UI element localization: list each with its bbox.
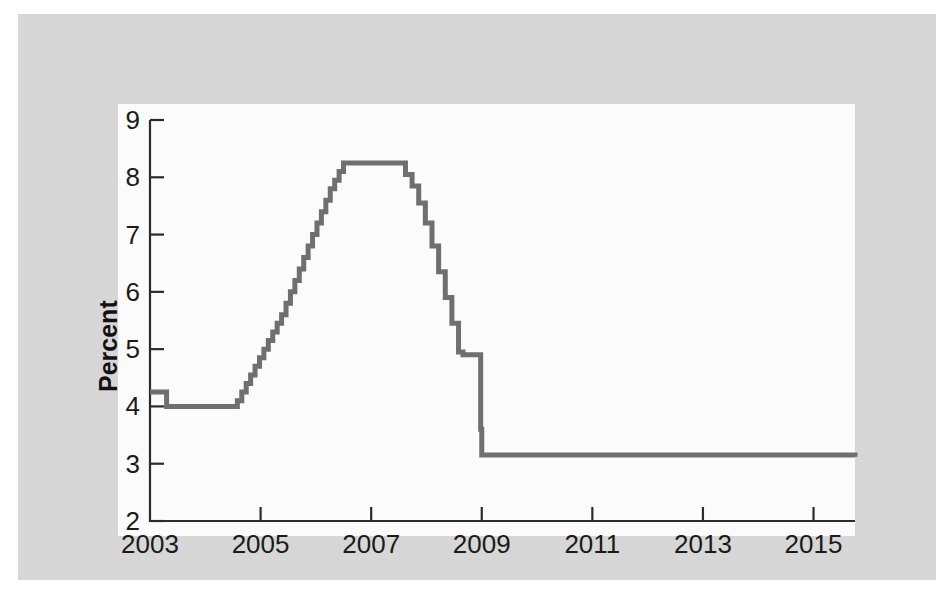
y-axis-label: Percent bbox=[94, 300, 122, 392]
y-axis-title: Percent bbox=[94, 300, 122, 392]
y-tick-label: 3 bbox=[126, 449, 140, 479]
x-tick-label: 2015 bbox=[785, 529, 843, 559]
x-tick-label: 2003 bbox=[121, 529, 179, 559]
scanned-page: commercial banks with small and medium c… bbox=[0, 0, 948, 604]
x-tick-label: 2011 bbox=[564, 529, 620, 559]
interest-rate-step-chart: Percent 23456789 20032005200720092011201… bbox=[0, 0, 948, 604]
y-tick-label: 4 bbox=[126, 391, 140, 421]
y-tick-label: 8 bbox=[126, 162, 140, 192]
axis-spine bbox=[150, 120, 855, 521]
x-tick-label: 2007 bbox=[342, 529, 400, 559]
y-tick-label: 5 bbox=[126, 334, 140, 364]
y-axis-ticks: 23456789 bbox=[126, 105, 164, 536]
axis-lines bbox=[150, 120, 855, 521]
series-line-policy-rate bbox=[150, 163, 855, 457]
y-tick-label: 9 bbox=[126, 105, 140, 135]
x-axis-ticks: 2003200520072009201120132015 bbox=[121, 507, 842, 559]
y-tick-label: 7 bbox=[126, 220, 140, 250]
y-tick-label: 6 bbox=[126, 277, 140, 307]
x-tick-label: 2005 bbox=[232, 529, 290, 559]
x-tick-label: 2009 bbox=[453, 529, 511, 559]
x-tick-label: 2013 bbox=[674, 529, 732, 559]
